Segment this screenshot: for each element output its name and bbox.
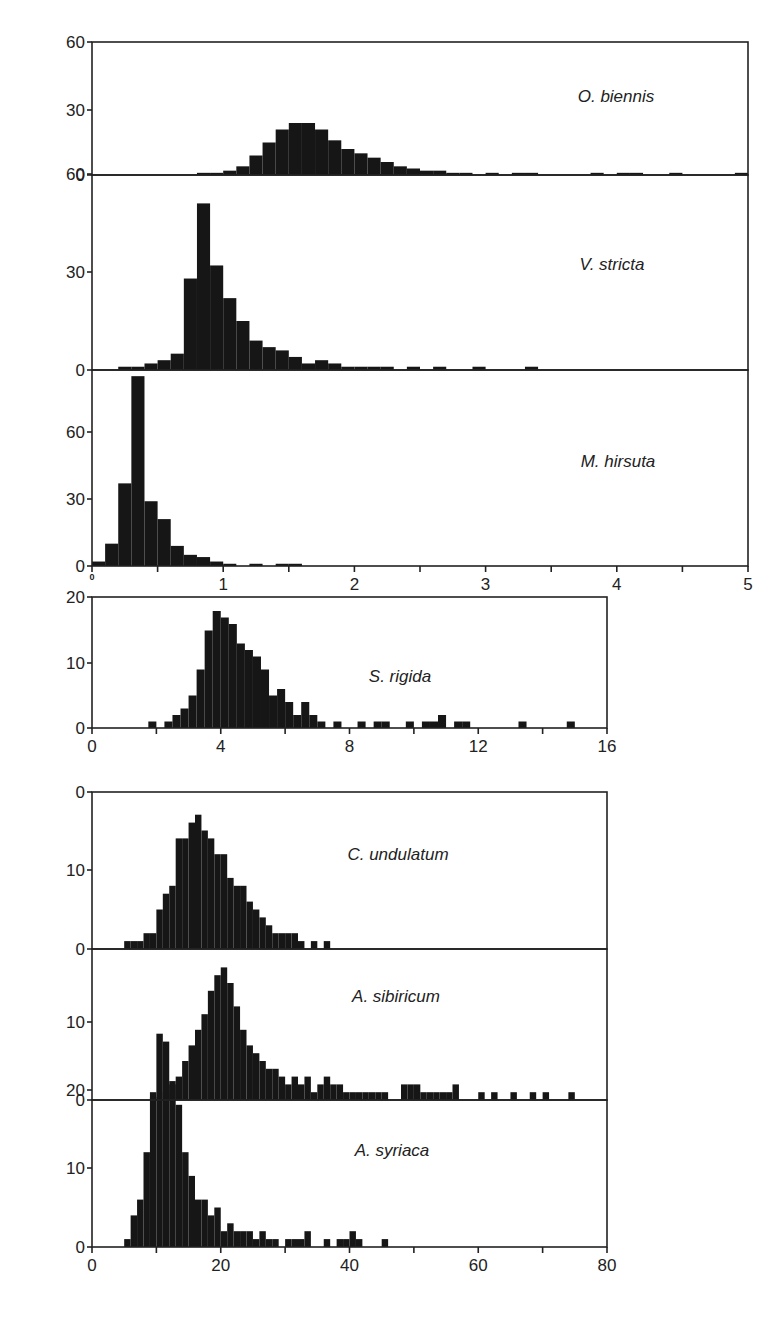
histogram-bar [315,130,328,176]
histogram-bar [249,156,262,176]
species-label: A. sibiricum [351,987,440,1006]
histogram-bar [317,722,325,729]
histogram-bar [195,815,201,949]
histogram-bar [237,644,245,729]
histogram-bar [292,933,298,949]
histogram-bar [462,722,470,729]
histogram-bar [201,831,207,950]
histogram-bar [210,265,223,370]
histogram-bars [118,203,538,370]
histogram-bar [272,933,278,949]
histogram-bar [269,696,277,729]
histogram-bar [227,1223,233,1247]
histogram-bar [197,670,205,729]
histogram-bar [176,838,182,949]
histogram-bar [298,1239,304,1247]
histogram-bar [491,1092,497,1100]
histogram-bar [261,670,269,729]
species-label: V. stricta [580,255,645,274]
histogram-bar [311,941,317,949]
histogram-bar [240,1231,246,1247]
histogram-bar [324,941,330,949]
histogram-bar [478,1092,484,1100]
histogram-bar [158,360,171,370]
histogram-bar [169,1081,175,1247]
x-tick-label: 12 [469,737,488,756]
histogram-bar [253,1053,259,1100]
histogram-bar [401,1084,407,1100]
histogram-bar [236,321,249,370]
histogram-bar [302,363,315,370]
histogram-bar [144,1152,150,1247]
histogram-bar [205,631,213,729]
y-tick-label: 30 [66,101,85,120]
y-tick-label: 20 [66,1081,85,1100]
x-tick-label: 16 [598,737,617,756]
histogram-bar [292,1077,298,1100]
histogram-bar [156,1034,162,1247]
panel-frame [92,597,607,728]
histogram-bar [420,1092,426,1100]
x-tick-label: 0 [87,1256,96,1275]
histogram-bar [253,1239,259,1247]
histogram-bar [324,1239,330,1247]
histogram-bar [227,983,233,1100]
histogram-bar [171,354,184,370]
x-tick-label: 80 [598,1256,617,1275]
histogram-bar [236,166,249,175]
histogram-bar [337,1084,343,1100]
histogram-bar [356,1239,362,1247]
histogram-bar [184,555,197,566]
histogram-bar [182,838,188,949]
histogram-panel: 03060V. stricta [66,165,748,380]
histogram-bar [324,1077,330,1100]
histogram-bar [221,967,227,1100]
histogram-panel: 0100C. undulatum [66,783,607,959]
histogram-bar [543,1092,549,1100]
histogram-bar [285,1239,291,1247]
histogram-bar [279,933,285,949]
histogram-bar [337,1239,343,1247]
histogram-bar [369,1092,375,1100]
histogram-bar [214,975,220,1100]
histogram-bar [382,1239,388,1247]
histogram-bar [301,702,309,728]
histogram-bar [208,991,214,1100]
histogram-bars [92,376,302,566]
histogram-bar [184,279,197,370]
histogram-bar [182,1152,188,1247]
histogram-bar [156,910,162,950]
histogram-bar [144,933,150,949]
histogram-bar [227,878,233,949]
histogram-bar [176,1077,182,1100]
histogram-bar [285,933,291,949]
histogram-bar [221,1231,227,1247]
histogram-bar [181,709,189,729]
histogram-bar [368,158,381,175]
histogram-bar [328,363,341,370]
histogram-bar [446,1092,452,1100]
histogram-bar [358,722,366,729]
histogram-bar [189,1176,195,1247]
y-tick-label: 0 [76,557,85,576]
histogram-bar [163,894,169,949]
histogram-bar [105,544,118,566]
x-tick-label: 60 [469,1256,488,1275]
histogram-bar [172,715,180,728]
histogram-bar [144,363,157,370]
histogram-bar [131,941,137,949]
histogram-bar [438,715,446,728]
histogram-bar [430,722,438,729]
histogram-bar [381,162,394,175]
histogram-bar [422,722,430,729]
histogram-bar [266,1239,272,1247]
histogram-bar [279,1077,285,1100]
histogram-bar [272,1239,278,1247]
histogram-bar [150,1097,156,1247]
y-tick-label: 10 [66,1159,85,1178]
histogram-bar [253,910,259,950]
histogram-bar [317,1084,323,1100]
x-tick-label: 40 [340,1256,359,1275]
y-tick-label: 60 [66,423,85,442]
histogram-panel: 03060O. biennis [66,33,748,185]
